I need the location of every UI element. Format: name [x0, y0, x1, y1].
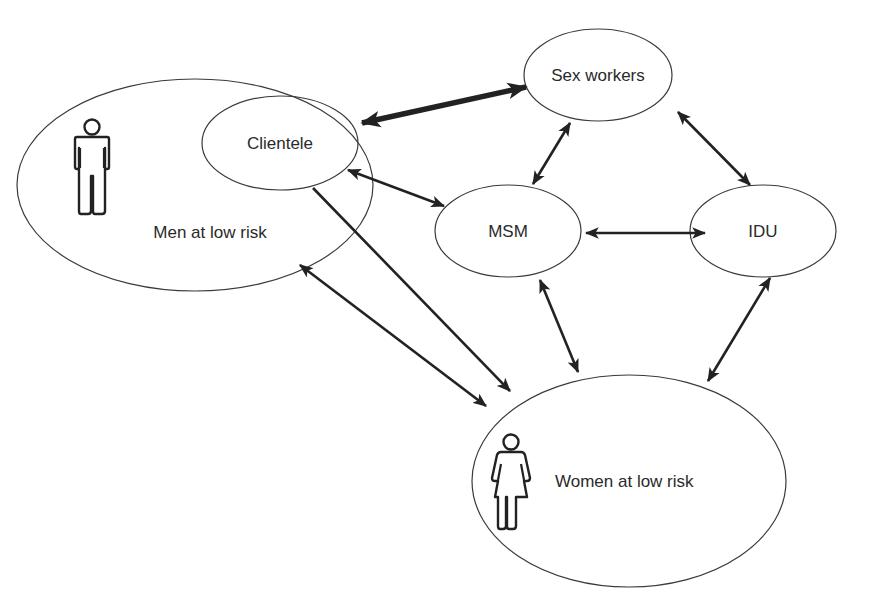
label-women-at-low-risk: Women at low risk — [555, 472, 694, 491]
network-diagram: Clientele Men at low risk Sex workers MS… — [0, 0, 893, 616]
edge-sexworkers-idu — [678, 112, 750, 185]
male-person-icon — [75, 120, 109, 215]
label-msm: MSM — [488, 222, 528, 241]
node-men-at-low-risk — [17, 79, 373, 291]
female-person-icon — [492, 435, 530, 530]
edge-men-women — [300, 265, 486, 406]
edge-clientele-msm — [348, 170, 444, 206]
edge-idu-women — [708, 278, 770, 381]
label-idu: IDU — [748, 222, 777, 241]
label-clientele: Clientele — [247, 134, 313, 153]
edge-clientele-women — [313, 188, 510, 391]
label-men-at-low-risk: Men at low risk — [153, 223, 267, 242]
edge-clientele-sexworkers — [362, 87, 526, 123]
edge-sexworkers-msm — [533, 123, 570, 184]
label-sex-workers: Sex workers — [551, 66, 645, 85]
edge-msm-women — [540, 280, 578, 372]
